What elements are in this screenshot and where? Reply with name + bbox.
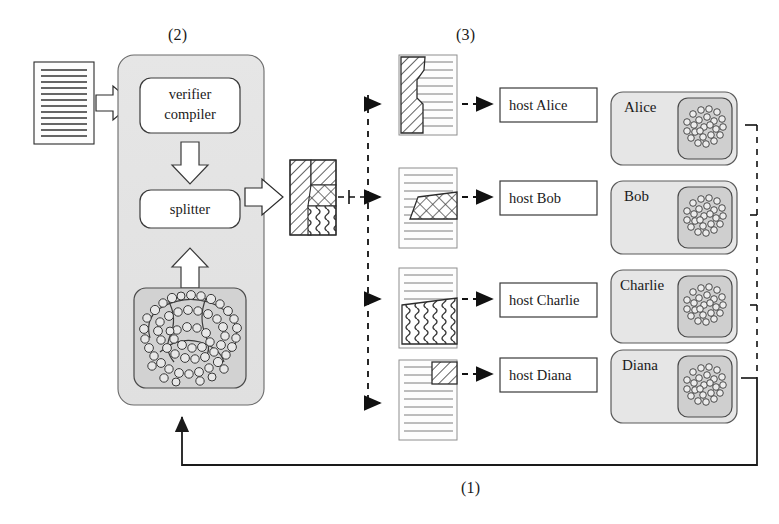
block-to-bus-dashed-link <box>338 190 366 204</box>
participant-bob-label: Bob <box>624 188 649 205</box>
step-label-1: (1) <box>461 480 480 496</box>
share-alice-document <box>399 55 457 135</box>
host-bob-label: host Bob <box>509 190 561 207</box>
splitter-label: splitter <box>140 201 240 218</box>
figure-canvas: (2) (3) (1) verifier compiler splitter h… <box>0 0 779 524</box>
combined-share-block <box>290 160 336 235</box>
diagram-vector-layer <box>0 0 779 524</box>
distribution-bus <box>368 95 380 406</box>
share-charlie-region <box>402 298 457 344</box>
participant-alice-label: Alice <box>624 99 656 116</box>
host-charlie-label: host Charlie <box>509 292 579 309</box>
share-charlie-document <box>399 268 457 348</box>
share-bob-document <box>399 168 457 248</box>
share-diana-document <box>399 360 457 440</box>
collection-bus <box>741 125 757 378</box>
verifier-compiler-label-line2: compiler <box>140 106 240 123</box>
share-to-host-arrows <box>462 104 492 374</box>
step-label-3: (3) <box>456 27 475 43</box>
step-label-2: (2) <box>168 27 187 43</box>
source-program-document <box>34 62 94 144</box>
participant-diana-label: Diana <box>622 357 658 374</box>
verifier-compiler-label-line1: verifier <box>140 86 240 103</box>
host-alice-label: host Alice <box>509 97 567 114</box>
host-boxes <box>500 88 597 392</box>
share-diana-region <box>432 362 457 384</box>
participant-charlie-label: Charlie <box>620 277 664 294</box>
host-diana-label: host Diana <box>509 367 571 384</box>
